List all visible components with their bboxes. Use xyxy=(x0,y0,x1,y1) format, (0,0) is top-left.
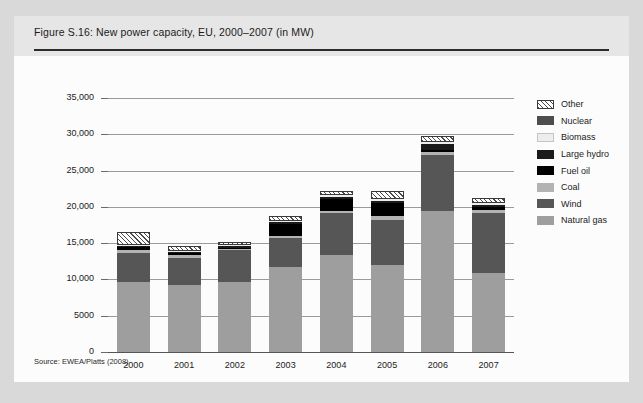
bar-segment-wind xyxy=(269,238,302,267)
bar-segment-fuel-oil xyxy=(117,247,150,250)
bar-segment-biomass xyxy=(320,195,353,197)
bar-segment-fuel-oil xyxy=(472,207,505,210)
bar-segment-natural-gas xyxy=(421,211,454,352)
legend-swatch-icon xyxy=(537,183,554,192)
chart-legend: OtherNuclearBiomassLarge hydroFuel oilCo… xyxy=(537,96,642,229)
y-axis-label: 30,000 xyxy=(40,128,94,138)
bar-segment-natural-gas xyxy=(168,285,201,352)
bar-segment-fuel-oil xyxy=(320,199,353,211)
y-axis-tick xyxy=(101,316,108,317)
bar-segment-wind xyxy=(421,155,454,211)
legend-item-fuel-oil: Fuel oil xyxy=(537,162,642,179)
bar-segment-other xyxy=(421,136,454,142)
bar-segment-wind xyxy=(168,258,201,285)
bar-2003 xyxy=(269,216,302,352)
bar-segment-large-hydro xyxy=(269,222,302,224)
bar-segment-natural-gas xyxy=(218,282,251,352)
bar-segment-fuel-oil xyxy=(421,150,454,152)
bar-segment-large-hydro xyxy=(421,144,454,151)
bar-segment-wind xyxy=(117,253,150,281)
bar-2007 xyxy=(472,198,505,352)
x-axis-line xyxy=(108,352,514,353)
legend-item-nuclear: Nuclear xyxy=(537,113,642,130)
y-axis-tick xyxy=(101,279,108,280)
legend-swatch-icon xyxy=(537,166,554,175)
legend-swatch-icon xyxy=(537,116,554,125)
bar-segment-coal xyxy=(320,211,353,214)
bar-segment-coal xyxy=(269,236,302,239)
bar-2000 xyxy=(117,232,150,352)
page-title: Figure S.16: New power capacity, EU, 200… xyxy=(34,26,314,38)
y-axis-label: 15,000 xyxy=(40,237,94,247)
bar-2004 xyxy=(320,191,353,352)
bar-segment-other xyxy=(218,242,251,246)
legend-label: Nuclear xyxy=(561,116,592,126)
source-note: Source: EWEA/Platts (2008) xyxy=(34,357,129,366)
bar-segment-coal xyxy=(421,152,454,155)
y-axis-label: 25,000 xyxy=(40,165,94,175)
bar-segment-wind xyxy=(472,213,505,273)
y-axis-tick xyxy=(101,243,108,244)
bar-segment-other xyxy=(117,232,150,244)
bar-segment-fuel-oil xyxy=(269,224,302,236)
legend-label: Natural gas xyxy=(561,215,607,225)
legend-label: Fuel oil xyxy=(561,166,590,176)
bar-2002 xyxy=(218,242,251,352)
legend-swatch-icon xyxy=(537,216,554,225)
bar-segment-coal xyxy=(371,216,404,220)
bar-2001 xyxy=(168,246,201,352)
bar-segment-large-hydro xyxy=(371,201,404,203)
bar-segment-other xyxy=(371,191,404,198)
bar-segment-coal xyxy=(117,250,150,254)
chart-plot-area: 0500010,00015,00020,00025,00030,00035,00… xyxy=(108,98,514,352)
legend-label: Biomass xyxy=(561,132,596,142)
y-axis-label: 5000 xyxy=(40,310,94,320)
legend-item-large-hydro: Large hydro xyxy=(537,146,642,163)
y-axis-label: 10,000 xyxy=(40,273,94,283)
bar-segment-natural-gas xyxy=(371,265,404,352)
figure-panel: Figure S.16: New power capacity, EU, 200… xyxy=(14,16,629,382)
y-axis-tick xyxy=(101,98,108,99)
legend-item-other: Other xyxy=(537,96,642,113)
y-axis-tick xyxy=(101,134,108,135)
bar-segment-large-hydro xyxy=(472,205,505,207)
legend-label: Wind xyxy=(561,199,582,209)
y-axis-tick xyxy=(101,171,108,172)
bar-segment-wind xyxy=(371,220,404,265)
bar-segment-other xyxy=(269,216,302,221)
y-axis-label: 20,000 xyxy=(40,201,94,211)
bar-segment-biomass xyxy=(371,199,404,201)
legend-swatch-icon xyxy=(537,100,554,109)
bar-segment-wind xyxy=(218,250,251,282)
bar-segment-coal xyxy=(218,248,251,250)
y-axis-label: 0 xyxy=(40,346,94,356)
legend-item-biomass: Biomass xyxy=(537,129,642,146)
bar-segment-coal xyxy=(472,210,505,213)
legend-label: Other xyxy=(561,99,584,109)
y-axis-tick xyxy=(101,207,108,208)
bar-segment-biomass xyxy=(472,203,505,205)
bar-2006 xyxy=(421,136,454,352)
bar-segment-natural-gas xyxy=(117,282,150,352)
y-axis-tick xyxy=(101,352,108,353)
bar-segment-coal xyxy=(168,255,201,258)
bar-segment-other xyxy=(472,198,505,203)
legend-label: Large hydro xyxy=(561,149,609,159)
figure-page: Figure S.16: New power capacity, EU, 200… xyxy=(0,0,643,403)
gridline xyxy=(108,98,514,99)
legend-item-coal: Coal xyxy=(537,179,642,196)
bar-segment-large-hydro xyxy=(320,197,353,199)
bar-segment-natural-gas xyxy=(472,273,505,352)
bar-2005 xyxy=(371,191,404,352)
title-divider xyxy=(34,49,609,51)
bar-segment-other xyxy=(320,191,353,195)
legend-swatch-icon xyxy=(537,199,554,208)
x-axis-label-2007: 2007 xyxy=(459,360,519,370)
bar-segment-natural-gas xyxy=(269,267,302,352)
bar-segment-biomass xyxy=(421,142,454,144)
y-axis-label: 35,000 xyxy=(40,92,94,102)
legend-label: Coal xyxy=(561,182,580,192)
bar-segment-fuel-oil xyxy=(371,203,404,217)
legend-swatch-icon xyxy=(537,133,554,142)
bar-segment-fuel-oil xyxy=(168,253,201,255)
